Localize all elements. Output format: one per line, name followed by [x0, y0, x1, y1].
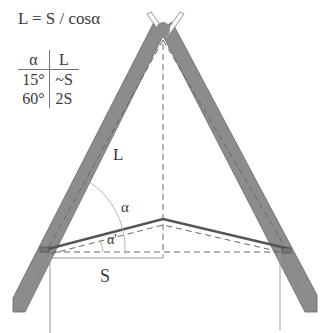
apex-cap	[156, 22, 170, 38]
angle-length-table: α L 15° ~S 60° 2S	[18, 50, 79, 108]
right-rafter	[160, 22, 317, 312]
collar-tie	[44, 219, 290, 250]
formula-text: L = S / cosα	[18, 10, 100, 27]
left-joint-block	[40, 247, 49, 252]
right-joint-block	[282, 248, 291, 253]
span-label: S	[100, 267, 110, 285]
table-cell-length: ~S	[49, 71, 79, 89]
table-header-alpha: α	[18, 51, 49, 69]
alpha-prime-arc	[100, 240, 103, 252]
table-cell-angle: 15°	[18, 71, 49, 89]
table-cell-length: 2S	[49, 90, 79, 108]
alpha-label: α	[121, 200, 129, 215]
right-rafter-dashed	[163, 40, 288, 252]
table-header-l: L	[49, 51, 79, 69]
span-bracket	[51, 254, 163, 258]
table-divider	[49, 50, 50, 108]
alpha-prime-label: α'	[107, 233, 117, 247]
rafter-length-label: L	[113, 146, 123, 163]
table-cell-angle: 60°	[18, 90, 49, 108]
